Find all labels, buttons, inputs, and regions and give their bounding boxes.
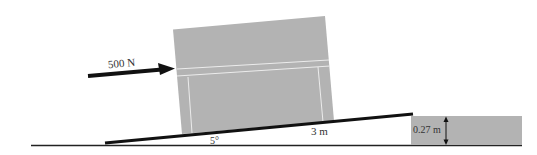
force-label: 500 N bbox=[108, 57, 136, 70]
diagram-svg bbox=[0, 0, 537, 155]
diagram-canvas: 500 N 5° 3 m 0.27 m bbox=[0, 0, 537, 155]
ramp-length-label: 3 m bbox=[311, 126, 328, 137]
step-height-label: 0.27 m bbox=[413, 125, 441, 135]
ramp-angle-label: 5° bbox=[210, 136, 219, 146]
